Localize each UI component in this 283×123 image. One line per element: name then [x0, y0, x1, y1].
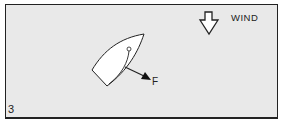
wind-label: WIND: [231, 13, 258, 23]
sailboat-hull-top-view-icon: [92, 34, 144, 86]
down-arrow-outline-icon: [200, 12, 218, 34]
panel-number: 3: [8, 104, 14, 115]
force-label: F: [152, 77, 158, 87]
mast-icon: [127, 47, 131, 51]
force-arrow-icon: [125, 67, 151, 80]
